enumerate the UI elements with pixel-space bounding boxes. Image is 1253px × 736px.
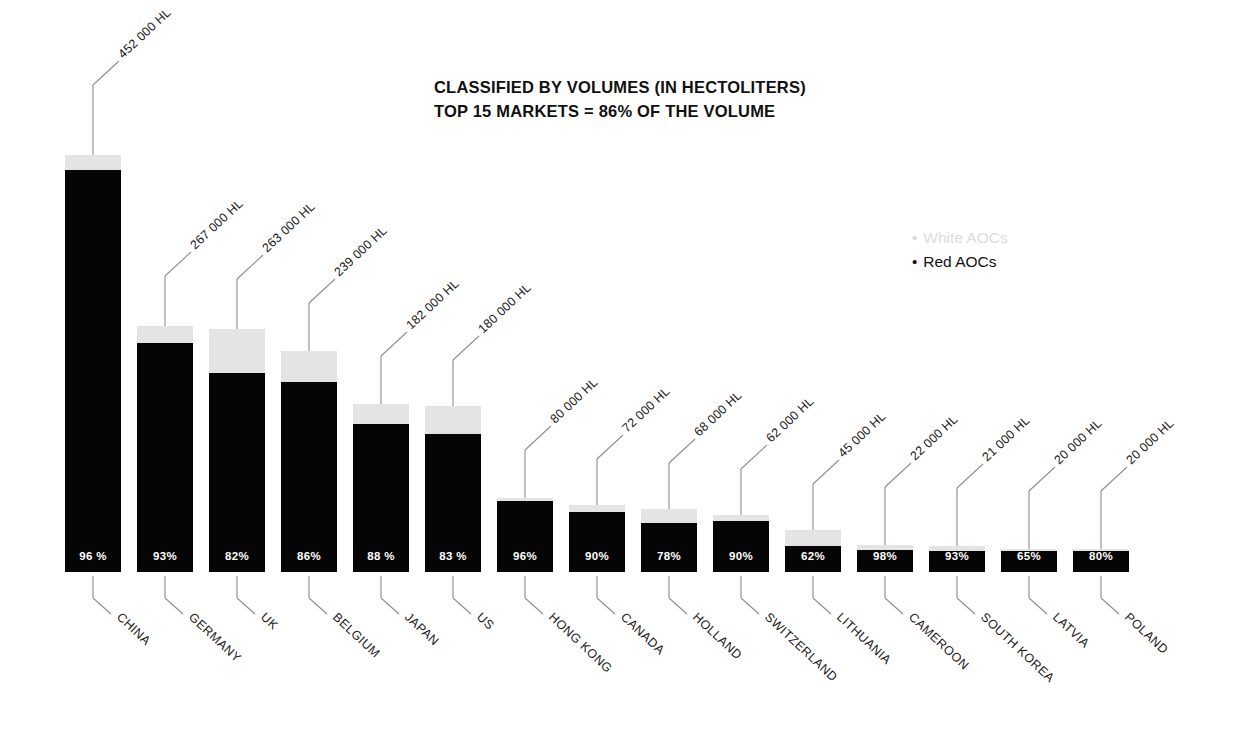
bar-segment-red-aocs (425, 434, 481, 572)
bar-segment-white-aocs (209, 329, 265, 373)
bar-holland[interactable] (641, 509, 697, 572)
bar-uk[interactable] (209, 329, 265, 572)
bar-segment-white-aocs (785, 530, 841, 546)
bar-belgium[interactable] (281, 351, 337, 572)
bar-lithuania[interactable] (785, 530, 841, 572)
bar-segment-red-aocs (137, 343, 193, 572)
bar-segment-red-aocs (857, 550, 913, 572)
bar-segment-red-aocs (641, 523, 697, 572)
bar-poland[interactable] (1073, 549, 1129, 572)
bar-segment-red-aocs (281, 382, 337, 572)
bar-segment-white-aocs (65, 155, 121, 170)
bar-japan[interactable] (353, 404, 409, 572)
bar-latvia[interactable] (1001, 549, 1057, 572)
plot-area: 96 %93%82%86%88 %83 %96%90%78%90%62%98%9… (0, 0, 1253, 736)
bar-switzerland[interactable] (713, 515, 769, 572)
bar-segment-white-aocs (353, 404, 409, 424)
chart-canvas: CLASSIFIED BY VOLUMES (IN HECTOLITERS) T… (0, 0, 1253, 736)
bar-segment-red-aocs (1073, 551, 1129, 572)
bar-segment-red-aocs (209, 373, 265, 572)
bar-segment-white-aocs (425, 406, 481, 434)
bar-germany[interactable] (137, 326, 193, 572)
bar-segment-red-aocs (1001, 551, 1057, 572)
bar-us[interactable] (425, 406, 481, 572)
bar-china[interactable] (65, 155, 121, 572)
bar-canada[interactable] (569, 505, 625, 572)
bar-segment-red-aocs (569, 512, 625, 572)
bar-segment-red-aocs (785, 546, 841, 572)
bar-hong-kong[interactable] (497, 498, 553, 572)
bar-segment-white-aocs (281, 351, 337, 382)
bar-cameroon[interactable] (857, 545, 913, 572)
bar-segment-red-aocs (353, 424, 409, 572)
bar-segment-white-aocs (569, 505, 625, 512)
bar-segment-red-aocs (929, 551, 985, 572)
bar-segment-white-aocs (137, 326, 193, 343)
bar-segment-red-aocs (65, 170, 121, 572)
bar-south-korea[interactable] (929, 546, 985, 572)
bar-segment-white-aocs (641, 509, 697, 523)
bar-segment-red-aocs (713, 521, 769, 572)
bar-segment-red-aocs (497, 501, 553, 572)
